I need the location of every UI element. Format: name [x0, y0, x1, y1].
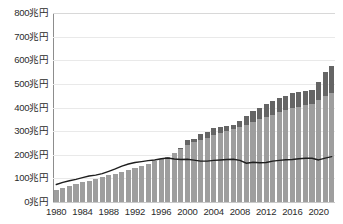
x-axis-tick-label: 2004: [204, 206, 224, 218]
x-axis-tick-label: 1988: [99, 206, 119, 218]
plot-area: [53, 13, 335, 202]
y-axis-tick-label: 500兆円: [0, 79, 49, 89]
y-axis-tick-label: 300兆円: [0, 126, 49, 136]
x-axis-tick-label: 1996: [151, 206, 171, 218]
x-axis-labels: 1980198419881992199620002004200820122016…: [0, 206, 343, 224]
x-axis-tick-label: 2000: [177, 206, 197, 218]
x-axis-tick-label: 2020: [308, 206, 328, 218]
y-axis-tick-label: 200兆円: [0, 150, 49, 160]
line-series: [53, 13, 335, 202]
line-series-path: [56, 157, 331, 185]
x-axis-tick-label: 1980: [46, 206, 66, 218]
y-axis-tick-label: 400兆円: [0, 103, 49, 113]
x-axis-tick-label: 2012: [256, 206, 276, 218]
x-axis-tick-label: 1992: [125, 206, 145, 218]
y-axis-labels: 0兆円100兆円200兆円300兆円400兆円500兆円600兆円700兆円80…: [0, 0, 49, 224]
x-axis-tick-label: 2016: [282, 206, 302, 218]
x-axis-tick-label: 2008: [230, 206, 250, 218]
x-axis-tick-label: 1984: [72, 206, 92, 218]
y-axis-tick-label: 100兆円: [0, 173, 49, 183]
y-axis-tick-label: 700兆円: [0, 32, 49, 42]
gridline: [53, 202, 335, 203]
y-axis-tick-label: 800兆円: [0, 8, 49, 18]
chart-container: 0兆円100兆円200兆円300兆円400兆円500兆円600兆円700兆円80…: [0, 0, 343, 224]
y-axis-tick-label: 600兆円: [0, 55, 49, 65]
